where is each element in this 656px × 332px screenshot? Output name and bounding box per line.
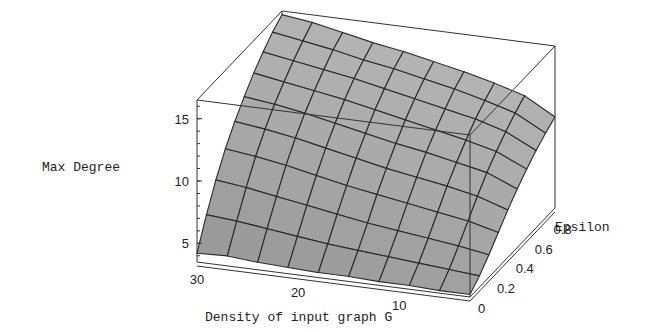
z-tick-label: 15 xyxy=(175,112,189,127)
y-axis-label: Epsilon xyxy=(555,220,610,235)
x-tick-label: 20 xyxy=(291,285,305,300)
y-tick-label: 0.4 xyxy=(516,261,534,276)
z-axis-label: Max Degree xyxy=(42,160,120,175)
y-tick-label: 0.2 xyxy=(497,281,515,296)
z-tick-label: 10 xyxy=(175,174,189,189)
x-tick-label: 10 xyxy=(392,298,406,313)
z-axis-ticks: 51015 xyxy=(175,106,202,256)
y-tick-label: 0.6 xyxy=(535,242,553,257)
z-tick-label: 5 xyxy=(182,236,189,251)
y-tick-label: 0 xyxy=(478,301,485,316)
x-axis-label: Density of input graph G xyxy=(205,310,392,325)
surface-mesh xyxy=(197,15,555,295)
x-tick-label: 30 xyxy=(190,272,204,287)
surface-plot: 51015 302010 00.20.40.60.8 Max Degree De… xyxy=(0,0,656,332)
